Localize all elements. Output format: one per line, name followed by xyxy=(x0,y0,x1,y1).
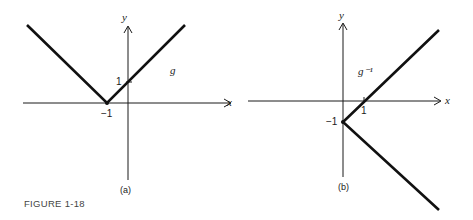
figure-caption: FIGURE 1-18 xyxy=(24,198,85,209)
panel-b-tick-y: −1 xyxy=(326,117,337,127)
panel-b-x-axis-label: x xyxy=(445,95,450,105)
panel-a-tick-y: 1 xyxy=(116,77,122,87)
panel-a-label: (a) xyxy=(120,185,131,195)
panel-a-x-axis-label: x xyxy=(227,97,232,107)
panel-b-label: (b) xyxy=(338,182,349,192)
panel-b-tick-x: 1 xyxy=(361,106,367,116)
panel-b-axes xyxy=(248,23,441,177)
panel-b-y-axis-label: y xyxy=(339,10,344,20)
panel-a-axes xyxy=(23,26,231,180)
figure-canvas xyxy=(0,0,473,220)
panel-b-function-label: g⁻¹ xyxy=(358,66,373,76)
panel-a-function-label: g xyxy=(170,65,176,75)
graph-g xyxy=(27,25,185,103)
panel-a-y-axis-label: y xyxy=(122,12,127,22)
panel-a-tick-x: −1 xyxy=(101,109,112,119)
graph-g-inverse xyxy=(343,30,439,210)
